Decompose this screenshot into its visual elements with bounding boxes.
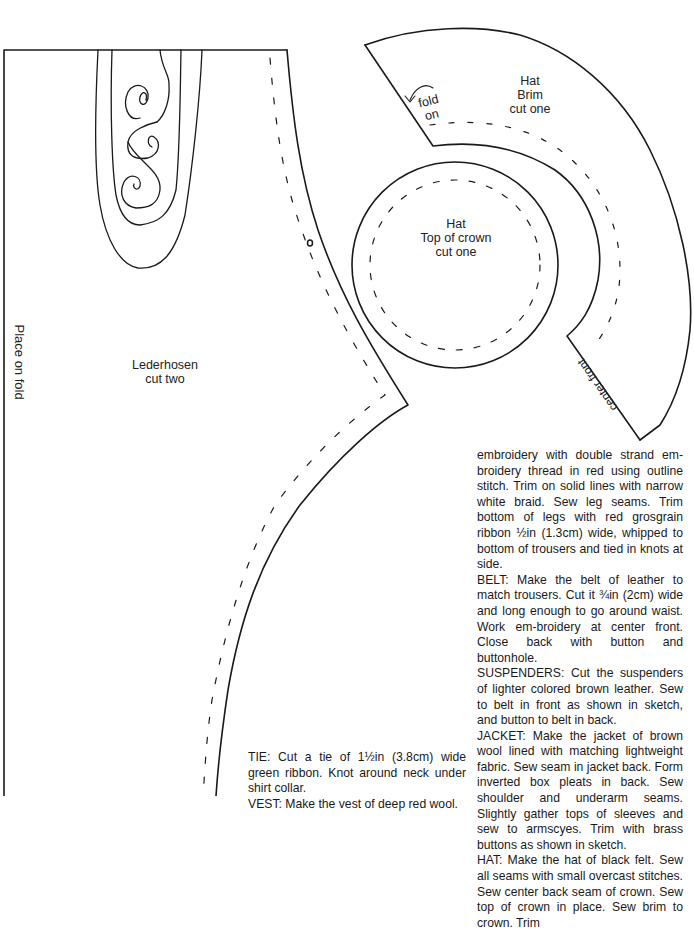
instruction-suspenders: SUSPENDERS: Cut the suspenders of lighte… — [477, 666, 683, 728]
lederhosen-outline — [4, 50, 408, 796]
hat-brim-cut: cut one — [485, 102, 575, 116]
hat-crown-title: Hat — [400, 217, 512, 231]
instructions-left-column: TIE: Cut a tie of 1½in (3.8cm) wide gree… — [248, 750, 466, 812]
hat-crown-label: Hat Top of crown cut one — [400, 217, 512, 259]
hat-brim-title: Hat — [485, 74, 575, 88]
instruction-tie: TIE: Cut a tie of 1½in (3.8cm) wide gree… — [248, 750, 466, 797]
button-marker — [308, 240, 313, 246]
hat-crown-seam-line — [370, 180, 540, 350]
instruction-embroidery: embroidery with double strand em-broider… — [477, 448, 683, 573]
hat-brim-subtitle: Brim — [485, 88, 575, 102]
lederhosen-seam-line — [203, 58, 385, 796]
instructions-right-column: embroidery with double strand em-broider… — [477, 448, 683, 931]
instruction-hat: HAT: Make the hat of black felt. Sew all… — [477, 853, 683, 931]
hat-crown-cut: cut one — [400, 245, 512, 259]
hat-brim-label: Hat Brim cut one — [485, 74, 575, 116]
hat-crown-subtitle: Top of crown — [400, 231, 512, 245]
lederhosen-cut: cut two — [110, 372, 220, 386]
instruction-jacket: JACKET: Make the jacket of brown wool li… — [477, 729, 683, 854]
instruction-belt: BELT: Make the belt of leather to match … — [477, 573, 683, 667]
embroidery-panel — [96, 50, 202, 268]
hat-crown-outline — [352, 162, 558, 368]
lederhosen-title: Lederhosen — [110, 358, 220, 372]
lederhosen-label: Lederhosen cut two — [110, 358, 220, 386]
instruction-vest: VEST: Make the vest of deep red wool. — [248, 797, 466, 813]
place-on-fold-label: Place on fold — [12, 325, 27, 415]
